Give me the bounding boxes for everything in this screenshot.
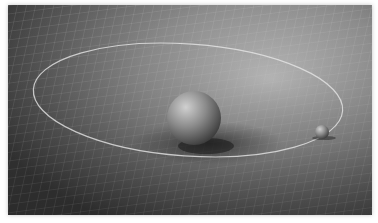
- spacetime-image: [8, 5, 372, 215]
- large-sphere: [167, 91, 221, 145]
- small-sphere: [315, 125, 329, 139]
- spacetime-illustration: [8, 5, 372, 215]
